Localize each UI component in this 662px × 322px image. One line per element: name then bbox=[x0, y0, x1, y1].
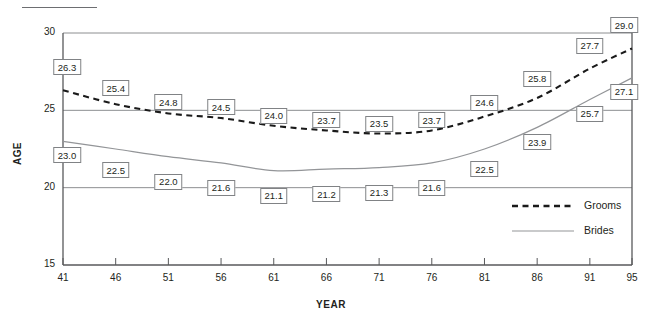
x-ticklabel-61: 61 bbox=[254, 272, 294, 283]
data-label-grooms-95: 29.0 bbox=[610, 17, 638, 33]
x-ticklabel-46: 46 bbox=[96, 272, 136, 283]
y-ticklabel-20: 20 bbox=[27, 181, 55, 192]
y-ticklabel-25: 25 bbox=[27, 103, 55, 114]
data-label-brides-56: 21.6 bbox=[207, 180, 235, 196]
x-ticklabel-86: 86 bbox=[517, 272, 557, 283]
x-ticklabel-66: 66 bbox=[306, 272, 346, 283]
series-line-brides bbox=[63, 78, 632, 171]
y-ticklabel-30: 30 bbox=[27, 26, 55, 37]
data-label-grooms-81: 24.6 bbox=[471, 95, 499, 111]
data-label-grooms-61: 24.0 bbox=[260, 108, 288, 124]
data-label-brides-51: 22.0 bbox=[155, 174, 183, 190]
x-ticklabel-95: 95 bbox=[612, 272, 652, 283]
data-label-brides-76: 21.6 bbox=[418, 180, 446, 196]
legend-label-brides: Brides bbox=[584, 224, 614, 236]
data-label-brides-81: 22.5 bbox=[471, 161, 499, 177]
data-label-grooms-56: 24.5 bbox=[207, 99, 235, 115]
x-ticklabel-56: 56 bbox=[201, 272, 241, 283]
chart-figure: AGE YEAR 15202530 4146515661667176818691… bbox=[0, 0, 662, 322]
x-ticklabel-71: 71 bbox=[359, 272, 399, 283]
x-ticklabel-91: 91 bbox=[570, 272, 610, 283]
data-label-grooms-91: 27.7 bbox=[576, 38, 604, 54]
data-label-brides-95: 27.1 bbox=[610, 84, 638, 100]
data-label-grooms-51: 24.8 bbox=[155, 94, 183, 110]
data-label-grooms-71: 23.5 bbox=[365, 116, 393, 132]
data-label-brides-91: 25.7 bbox=[576, 106, 604, 122]
y-ticklabel-15: 15 bbox=[27, 258, 55, 269]
data-label-brides-46: 22.5 bbox=[102, 162, 130, 178]
legend-label-grooms: Grooms bbox=[584, 199, 621, 211]
x-ticklabel-76: 76 bbox=[412, 272, 452, 283]
data-label-grooms-76: 23.7 bbox=[418, 112, 446, 128]
data-label-brides-86: 23.9 bbox=[523, 134, 551, 150]
data-label-brides-66: 21.2 bbox=[313, 186, 341, 202]
x-ticklabel-51: 51 bbox=[148, 272, 188, 283]
data-label-grooms-41: 26.3 bbox=[53, 59, 81, 75]
data-label-brides-61: 21.1 bbox=[260, 188, 288, 204]
series-line-grooms bbox=[63, 48, 632, 133]
x-ticklabel-81: 81 bbox=[464, 272, 504, 283]
data-label-grooms-66: 23.7 bbox=[313, 112, 341, 128]
legend-swatch-grooms bbox=[512, 200, 574, 212]
legend-swatch-brides bbox=[512, 225, 574, 237]
data-label-brides-41: 23.0 bbox=[53, 147, 81, 163]
data-label-brides-71: 21.3 bbox=[365, 185, 393, 201]
data-label-grooms-46: 25.4 bbox=[102, 80, 130, 96]
x-ticklabel-41: 41 bbox=[43, 272, 83, 283]
data-label-grooms-86: 25.8 bbox=[523, 71, 551, 87]
